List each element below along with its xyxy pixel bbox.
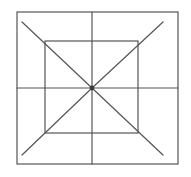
figure-container xyxy=(0,0,191,177)
geometric-figure xyxy=(0,0,191,177)
center-point-marker xyxy=(90,86,95,91)
